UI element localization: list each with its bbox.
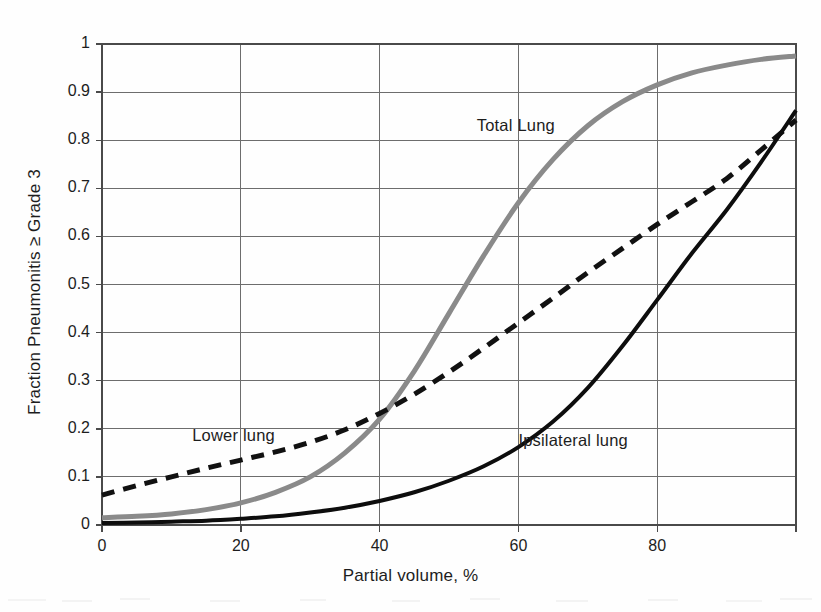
y-tick-label: 1	[44, 34, 90, 52]
y-tick-label: 0.9	[44, 82, 90, 100]
y-tick-label: 0.2	[44, 419, 90, 437]
gridlines	[102, 44, 796, 525]
axis-tick-marks	[96, 44, 796, 532]
y-axis-title: Fraction Pneumonitis ≥ Grade 3	[25, 52, 45, 532]
chart-canvas	[0, 0, 821, 612]
x-tick-label: 40	[355, 537, 405, 555]
y-tick-label: 0.1	[44, 467, 90, 485]
y-tick-label: 0.7	[44, 178, 90, 196]
curve-label-total-lung: Total Lung	[477, 116, 555, 135]
y-tick-label: 0.8	[44, 130, 90, 148]
x-tick-label: 20	[216, 537, 266, 555]
x-tick-label: 60	[493, 537, 543, 555]
x-axis-title: Partial volume, %	[0, 566, 821, 586]
curve-total-lung	[102, 56, 796, 518]
y-tick-label: 0.5	[44, 275, 90, 293]
x-tick-label: 0	[77, 537, 127, 555]
y-tick-label: 0.3	[44, 371, 90, 389]
scan-artifact-strip	[0, 594, 821, 612]
curve-label-ipsilateral-lung: Ipsilateral lung	[518, 431, 628, 450]
y-tick-label: 0	[44, 515, 90, 533]
y-tick-label: 0.6	[44, 226, 90, 244]
data-curves	[102, 56, 796, 523]
curve-label-lower-lung: Lower lung	[192, 426, 275, 445]
y-tick-label: 0.4	[44, 323, 90, 341]
x-tick-label: 80	[632, 537, 682, 555]
figure-container: 00.10.20.30.40.50.60.70.80.91 020406080 …	[0, 0, 821, 612]
